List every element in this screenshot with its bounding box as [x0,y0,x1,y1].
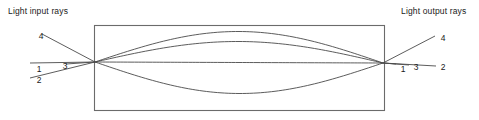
ray-4-output-segment [383,36,435,63]
grin-lens-ray-diagram: Light input rays Light output rays 4312 … [0,0,479,120]
output-ray-label-4: 4 [438,33,448,43]
ray-2 [30,32,436,79]
output-ray-label-3: 3 [411,62,421,72]
ray-1-lens-path [95,62,383,63]
output-ray-label-2: 2 [438,62,448,72]
lens-rectangle [95,26,385,111]
input-ray-label-4: 4 [36,31,46,41]
ray-4 [42,34,435,94]
lens-outline-group [95,26,385,111]
ray-4-lens-path [95,62,383,94]
input-ray-label-2: 2 [34,75,44,85]
ray-4-input-segment [42,34,95,62]
input-ray-label-3: 3 [60,61,70,71]
input-ray-label-1: 1 [34,64,44,74]
ray-trace-canvas [0,0,479,120]
output-ray-label-1: 1 [398,64,408,74]
ray-paths-group [30,32,436,94]
ray-2-lens-path [95,32,383,64]
ray-3-lens-path [95,42,383,64]
ray-3 [66,42,409,66]
